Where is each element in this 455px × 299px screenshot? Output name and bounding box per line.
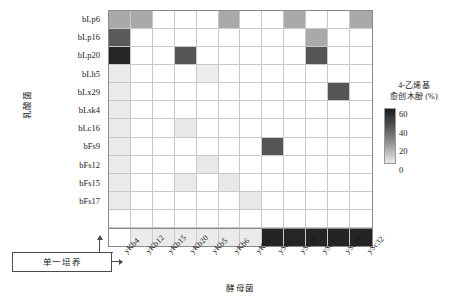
x-axis-title: 酵母菌: [108, 281, 373, 293]
heatmap-cell: [262, 29, 284, 47]
heatmap-cell: [262, 156, 284, 174]
heatmap-cell: [109, 156, 131, 174]
legend-tick-label: 40: [399, 129, 408, 137]
heatmap-cell: [153, 138, 175, 156]
heatmap-cell: [328, 138, 350, 156]
heatmap-cell: [131, 174, 153, 192]
heatmap-cell: [153, 11, 175, 29]
heatmap-cell: [131, 138, 153, 156]
heatmap-cell: [240, 174, 262, 192]
heatmap-cell: [284, 210, 306, 228]
heatmap-cell: [350, 174, 372, 192]
legend-tick-list: 6040200: [399, 108, 439, 164]
heatmap-cell: [109, 83, 131, 101]
heatmap-cell: [219, 174, 241, 192]
heatmap-cell: [306, 174, 328, 192]
heatmap-cell: [328, 83, 350, 101]
heatmap-cell: [197, 29, 219, 47]
heatmap-cell: [284, 138, 306, 156]
legend: 4-乙烯基 愈创木酚 (%) 6040200: [378, 80, 454, 166]
heatmap-cell: [240, 138, 262, 156]
legend-tick-label: 60: [399, 110, 408, 118]
heatmap-cell: [219, 29, 241, 47]
row-label-list: bLp6bLp16bLp20bLh5bLx29bLsk4bLc16bFs9bFs…: [52, 10, 104, 210]
heatmap-cell: [153, 29, 175, 47]
heatmap-cell: [153, 83, 175, 101]
heatmap-cell: [219, 138, 241, 156]
heatmap-cell: [219, 83, 241, 101]
heatmap-cell: [240, 101, 262, 119]
legend-title: 4-乙烯基 愈创木酚 (%): [378, 80, 450, 102]
heatmap-cell: [131, 192, 153, 210]
heatmap-grid: [108, 10, 373, 247]
heatmap-cell: [284, 192, 306, 210]
heatmap-cell: [219, 11, 241, 29]
row-label: bLc16: [52, 119, 104, 137]
heatmap-cell: [109, 210, 131, 228]
heatmap-cell: [306, 11, 328, 29]
heatmap-cell: [284, 101, 306, 119]
heatmap-cell: [350, 83, 372, 101]
heatmap-cell: [131, 119, 153, 137]
heatmap-cell: [131, 101, 153, 119]
heatmap-cell: [219, 65, 241, 83]
heatmap-cell: [306, 29, 328, 47]
heatmap-cell: [153, 47, 175, 65]
row-label: bLp6: [52, 10, 104, 28]
heatmap-cell: [306, 65, 328, 83]
heatmap-cell: [197, 11, 219, 29]
heatmap-cell: [109, 138, 131, 156]
legend-title-line1: 4-乙烯基: [378, 80, 450, 91]
heatmap-cell: [262, 11, 284, 29]
heatmap-cell: [175, 156, 197, 174]
heatmap-cell: [328, 156, 350, 174]
heatmap-cell: [306, 210, 328, 228]
heatmap-cell: [350, 138, 372, 156]
heatmap-cell: [240, 119, 262, 137]
legend-tick-label: 0: [399, 166, 403, 174]
heatmap-cell: [175, 138, 197, 156]
legend-title-line2: 愈创木酚 (%): [378, 91, 450, 102]
heatmap-cell: [262, 65, 284, 83]
row-label: bLp16: [52, 28, 104, 46]
heatmap-cell: [109, 119, 131, 137]
heatmap-cell: [350, 119, 372, 137]
heatmap-cell: [175, 83, 197, 101]
heatmap-cell: [262, 119, 284, 137]
heatmap-cell: [328, 192, 350, 210]
legend-colorbar: [384, 108, 396, 164]
heatmap-cell: [175, 11, 197, 29]
heatmap-cell: [350, 47, 372, 65]
heatmap-cell: [262, 210, 284, 228]
heatmap-cell: [197, 65, 219, 83]
heatmap-cell: [284, 11, 306, 29]
heatmap-cell: [240, 192, 262, 210]
heatmap-cell: [328, 119, 350, 137]
heatmap-cell: [175, 192, 197, 210]
monoculture-arrow-horizontal: [112, 261, 122, 262]
heatmap-cell: [306, 192, 328, 210]
heatmap-cell: [284, 47, 306, 65]
row-label: bLx29: [52, 83, 104, 101]
heatmap-cell: [219, 101, 241, 119]
heatmap-cell: [109, 47, 131, 65]
heatmap-cell: [262, 138, 284, 156]
heatmap-cell: [262, 101, 284, 119]
heatmap-cell: [350, 192, 372, 210]
heatmap-cell: [175, 29, 197, 47]
heatmap-cell: [197, 101, 219, 119]
row-label: bLp20: [52, 46, 104, 64]
heatmap-cell: [197, 83, 219, 101]
heatmap-cell: [131, 65, 153, 83]
heatmap-cell: [197, 210, 219, 228]
heatmap-cell: [175, 65, 197, 83]
heatmap-cell: [262, 192, 284, 210]
heatmap-cell: [219, 156, 241, 174]
heatmap-cell: [175, 119, 197, 137]
heatmap-cell: [219, 192, 241, 210]
heatmap-cell: [284, 119, 306, 137]
heatmap-cell: [131, 11, 153, 29]
heatmap-cell: [284, 174, 306, 192]
heatmap-cell: [306, 47, 328, 65]
heatmap-cell: [131, 47, 153, 65]
